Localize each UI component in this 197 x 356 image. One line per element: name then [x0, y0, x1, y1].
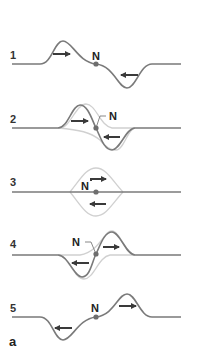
- node-dot: [93, 125, 98, 130]
- panel-number: 3: [10, 176, 16, 188]
- node-dot: [93, 189, 98, 194]
- node-label: N: [72, 236, 80, 248]
- panel-4: 4 N: [10, 231, 181, 279]
- panel-number: 5: [10, 302, 16, 314]
- panel-3: 3 N: [10, 168, 181, 216]
- node-label: N: [109, 110, 117, 122]
- node-dot: [93, 314, 98, 319]
- panel-number: 2: [10, 113, 16, 125]
- ghost-lower-curve: [58, 255, 135, 279]
- figure-label: a: [9, 334, 17, 349]
- standing-wave-node-diagram: 1 N 2 N 3 N 4 N: [0, 0, 197, 356]
- node-label: N: [91, 302, 99, 314]
- panel-5: 5 N: [10, 294, 181, 340]
- panel-1: 1 N: [10, 41, 181, 88]
- panel-number: 1: [10, 49, 16, 61]
- node-label: N: [92, 50, 100, 62]
- panel-2: 2 N: [10, 104, 181, 150]
- node-dot: [93, 61, 98, 66]
- node-dot: [93, 251, 98, 256]
- arrow-right-icon: [91, 179, 106, 181]
- node-label: N: [81, 180, 89, 192]
- panel-number: 4: [10, 238, 17, 250]
